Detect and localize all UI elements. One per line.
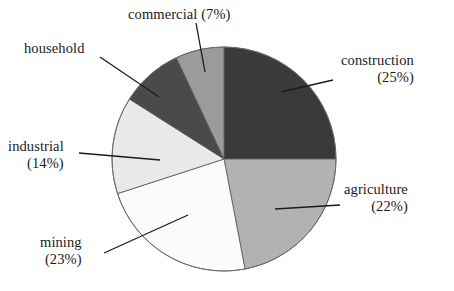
pie-label-agriculture-line2: (22%) [344,198,408,215]
pie-label-construction-line1: construction [341,52,414,68]
pie-chart-figure: commercial (7%) household industrial (14… [0,0,454,291]
pie-slice-construction[interactable] [224,47,336,159]
pie-label-household: household [24,40,85,57]
pie-label-commercial-line1: commercial (7%) [128,6,231,22]
pie-label-household-line1: household [24,40,85,56]
pie-label-agriculture: agriculture (22%) [344,181,408,215]
pie-label-construction-line2: (25%) [341,69,414,86]
pie-label-mining-line2: (23%) [40,251,82,268]
pie-label-industrial: industrial (14%) [8,138,64,172]
pie-label-mining-line1: mining [40,234,82,250]
pie-label-agriculture-line1: agriculture [344,181,408,197]
pie-label-mining: mining (23%) [40,234,82,268]
pie-label-commercial: commercial (7%) [128,6,231,23]
pie-label-industrial-line2: (14%) [8,155,64,172]
pie-label-construction: construction (25%) [341,52,414,86]
pie-label-industrial-line1: industrial [8,138,64,154]
